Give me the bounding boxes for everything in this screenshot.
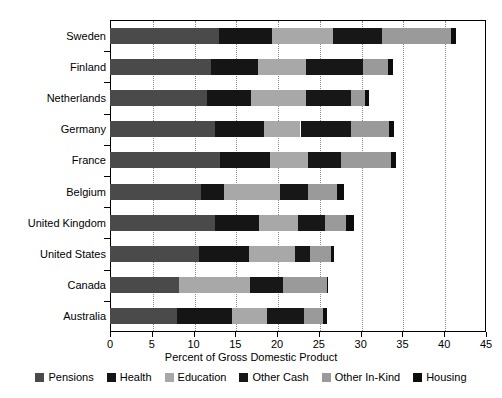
chart-legend: PensionsHealthEducationOther CashOther I…: [0, 371, 502, 384]
bar-segment-health: [219, 28, 272, 44]
bar-segment-pensions: [110, 246, 199, 262]
stacked-bar-chart: SwedenFinlandNetherlandsGermanyFranceBel…: [0, 0, 502, 398]
bar-segment-other-cash: [301, 121, 352, 137]
x-axis-tick: [277, 332, 278, 337]
bar-segment-housing: [391, 152, 396, 168]
y-axis-label-belgium: Belgium: [2, 186, 106, 198]
bar-segment-pensions: [110, 59, 211, 75]
x-axis-tick-label: 15: [220, 338, 250, 351]
bar-segment-pensions: [110, 277, 179, 293]
y-axis-label-sweden: Sweden: [2, 30, 106, 42]
legend-swatch-icon: [413, 373, 422, 382]
legend-item-housing[interactable]: Housing: [413, 371, 466, 384]
bar-segment-housing: [388, 59, 393, 75]
bar-united-kingdom: [110, 215, 486, 231]
x-axis-tick-label: 40: [429, 338, 459, 351]
legend-label: Pensions: [48, 371, 93, 384]
bar-segment-other-in-kind: [283, 277, 327, 293]
legend-label: Education: [178, 371, 227, 384]
bar-segment-education: [249, 246, 296, 262]
bar-segment-other-cash: [280, 184, 308, 200]
x-axis-tick: [444, 332, 445, 337]
legend-item-other-cash[interactable]: Other Cash: [239, 371, 308, 384]
y-axis-label-united-states: United States: [2, 248, 106, 260]
bar-netherlands: [110, 90, 486, 106]
legend-item-education[interactable]: Education: [165, 371, 227, 384]
bar-segment-housing: [327, 277, 328, 293]
bar-segment-health: [215, 215, 258, 231]
bar-segment-pensions: [110, 152, 220, 168]
bar-germany: [110, 121, 486, 137]
x-axis-tick-label: 5: [137, 338, 167, 351]
bar-finland: [110, 59, 486, 75]
bar-segment-education: [258, 59, 306, 75]
legend-swatch-icon: [239, 373, 248, 382]
bar-segment-pensions: [110, 28, 219, 44]
y-axis-label-finland: Finland: [2, 61, 106, 73]
bar-segment-education: [251, 90, 305, 106]
bar-segment-other-in-kind: [308, 184, 337, 200]
bar-segment-other-cash: [308, 152, 341, 168]
bar-segment-education: [259, 215, 298, 231]
x-axis-tick: [319, 332, 320, 337]
x-axis-tick-label: 10: [179, 338, 209, 351]
legend-swatch-icon: [322, 373, 331, 382]
x-axis-tick: [194, 332, 195, 337]
legend-item-other-in-kind[interactable]: Other In-Kind: [322, 371, 400, 384]
bar-segment-pensions: [110, 121, 215, 137]
bar-segment-other-cash: [267, 308, 304, 324]
x-axis-tick-label: 45: [471, 338, 501, 351]
bar-segment-housing: [346, 215, 354, 231]
y-axis-labels: SwedenFinlandNetherlandsGermanyFranceBel…: [0, 20, 106, 332]
y-axis-label-germany: Germany: [2, 123, 106, 135]
y-axis-label-netherlands: Netherlands: [2, 92, 106, 104]
y-axis-label-canada: Canada: [2, 279, 106, 291]
bar-segment-other-cash: [298, 215, 325, 231]
bar-segment-pensions: [110, 215, 215, 231]
legend-item-pensions[interactable]: Pensions: [35, 371, 93, 384]
bar-segment-education: [224, 184, 280, 200]
bar-segment-other-in-kind: [351, 90, 365, 106]
x-axis-tick-label: 0: [95, 338, 125, 351]
x-axis-tick-label: 35: [387, 338, 417, 351]
bar-segment-other-in-kind: [304, 308, 323, 324]
x-axis-tick-label: 20: [262, 338, 292, 351]
bar-france: [110, 152, 486, 168]
x-axis-tick: [110, 332, 111, 337]
bar-segment-other-in-kind: [341, 152, 390, 168]
bar-segment-other-cash: [250, 277, 283, 293]
bar-segment-health: [220, 152, 269, 168]
bar-canada: [110, 277, 486, 293]
bar-segment-health: [207, 90, 251, 106]
bars-layer: [110, 20, 486, 332]
bar-segment-other-cash: [295, 246, 309, 262]
legend-label: Health: [120, 371, 152, 384]
y-axis-label-united-kingdom: United Kingdom: [2, 217, 106, 229]
bar-segment-housing: [451, 28, 456, 44]
bar-united-states: [110, 246, 486, 262]
bar-segment-education: [264, 121, 301, 137]
bar-segment-other-in-kind: [351, 121, 389, 137]
bar-segment-pensions: [110, 308, 177, 324]
x-axis-tick: [486, 332, 487, 337]
bar-segment-other-in-kind: [363, 59, 388, 75]
bar-segment-education: [272, 28, 333, 44]
x-axis-tick: [402, 332, 403, 337]
bar-belgium: [110, 184, 486, 200]
bar-segment-health: [201, 184, 224, 200]
bar-segment-other-cash: [333, 28, 381, 44]
legend-swatch-icon: [35, 373, 44, 382]
bar-segment-other-cash: [306, 59, 363, 75]
bar-sweden: [110, 28, 486, 44]
legend-item-health[interactable]: Health: [107, 371, 152, 384]
y-axis-label-australia: Australia: [2, 310, 106, 322]
bar-segment-housing: [337, 184, 344, 200]
legend-label: Other Cash: [252, 371, 308, 384]
bar-segment-health: [211, 59, 258, 75]
x-axis-title: Percent of Gross Domestic Product: [0, 351, 502, 364]
x-axis-tick: [235, 332, 236, 337]
legend-swatch-icon: [165, 373, 174, 382]
bar-segment-education: [270, 152, 308, 168]
bar-segment-housing: [323, 308, 327, 324]
legend-label: Housing: [426, 371, 466, 384]
